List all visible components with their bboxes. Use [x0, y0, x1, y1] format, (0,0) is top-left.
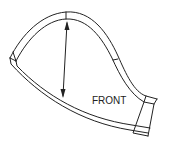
arrow-head-bottom — [61, 89, 66, 98]
arrow-head-top — [65, 21, 70, 30]
pattern-diagram: FRONT — [0, 0, 171, 147]
outer-top-curve — [10, 12, 157, 99]
measurement-arrow-shaft — [63, 23, 67, 96]
inner-bottom-curve — [16, 61, 150, 128]
right-end-cap-outer — [148, 99, 157, 136]
outer-bottom-curve — [10, 58, 148, 133]
side-notch — [113, 59, 118, 60]
front-label: FRONT — [92, 95, 126, 106]
inner-top-curve — [16, 19, 154, 104]
